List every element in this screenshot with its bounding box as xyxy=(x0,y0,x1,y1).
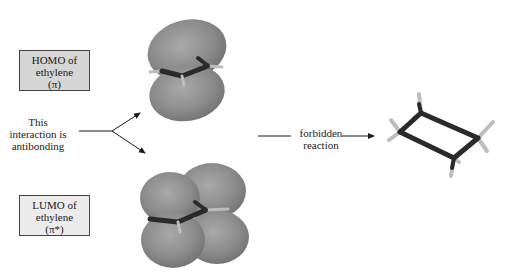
reaction-label-line2: reaction xyxy=(293,139,349,151)
lumo-label-line1: LUMO of xyxy=(20,199,89,211)
interaction-note-line3: antibonding xyxy=(2,140,74,152)
interaction-note-line1: This xyxy=(2,116,74,128)
lumo-label-line3: (π*) xyxy=(20,223,89,235)
homo-label-line1: HOMO of xyxy=(20,54,89,66)
interaction-note-line2: interaction is xyxy=(2,128,74,140)
homo-label-line2: ethylene xyxy=(20,66,89,78)
reaction-label: forbidden reaction xyxy=(293,127,349,151)
lumo-label-box: LUMO of ethylene (π*) xyxy=(19,195,90,236)
interaction-arrows xyxy=(79,113,145,153)
homo-label-line3: (π) xyxy=(20,78,89,90)
homo-orbital-icon xyxy=(141,11,234,128)
homo-label-box: HOMO of ethylene (π) xyxy=(19,50,90,91)
lumo-label-line2: ethylene xyxy=(20,211,89,223)
reaction-label-line1: forbidden xyxy=(293,127,349,139)
cyclobutane-icon xyxy=(389,94,493,176)
lumo-orbital-icon xyxy=(140,163,249,268)
interaction-note: This interaction is antibonding xyxy=(2,116,74,152)
